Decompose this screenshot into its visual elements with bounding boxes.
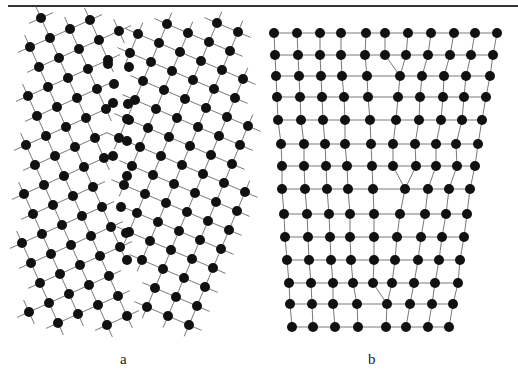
atom — [466, 50, 476, 60]
atom — [37, 229, 47, 239]
atom — [391, 115, 401, 125]
atom — [387, 278, 397, 288]
atom — [426, 28, 436, 38]
atom — [28, 209, 38, 219]
atom — [19, 189, 29, 199]
atom — [465, 184, 475, 194]
lattice-figure — [0, 0, 518, 388]
atom — [219, 178, 229, 188]
atom — [23, 91, 33, 101]
atom — [97, 202, 107, 212]
atom — [395, 71, 405, 81]
atom — [336, 28, 346, 38]
atom — [99, 153, 109, 163]
atom — [74, 44, 84, 54]
atom — [321, 161, 331, 171]
atom — [423, 184, 433, 194]
atom — [48, 200, 58, 210]
atom — [34, 62, 44, 72]
atom — [280, 232, 290, 242]
atom — [271, 71, 281, 81]
atom — [122, 255, 132, 265]
atom — [381, 322, 391, 332]
atom — [316, 71, 326, 81]
atom — [284, 278, 294, 288]
atom — [83, 64, 93, 74]
atom — [25, 42, 35, 52]
atom — [163, 311, 173, 321]
atom — [224, 225, 234, 235]
atom — [122, 311, 132, 321]
atom — [369, 255, 379, 265]
atom — [162, 19, 172, 29]
atom — [438, 92, 448, 102]
atom — [235, 140, 245, 150]
atom — [73, 309, 83, 319]
atom — [77, 211, 87, 221]
atom — [192, 301, 202, 311]
atom — [445, 50, 455, 60]
atom — [180, 94, 190, 104]
atom — [86, 231, 96, 241]
atom — [123, 99, 133, 109]
atom — [35, 278, 45, 288]
atom — [368, 278, 378, 288]
atom — [444, 322, 454, 332]
atom — [420, 209, 430, 219]
atom — [133, 29, 143, 39]
atom — [52, 102, 62, 112]
atom — [336, 50, 346, 60]
atom — [201, 103, 211, 113]
atom — [150, 283, 160, 293]
atom — [366, 139, 376, 149]
atom — [108, 151, 118, 161]
atom — [143, 123, 153, 133]
atom — [369, 232, 379, 242]
atom — [17, 238, 27, 248]
atom — [127, 161, 137, 171]
atom — [277, 161, 287, 171]
atom — [365, 115, 375, 125]
atom — [109, 79, 119, 89]
atom — [423, 322, 433, 332]
atom — [177, 160, 187, 170]
atom — [208, 263, 218, 273]
atom — [132, 208, 142, 218]
atom — [342, 161, 352, 171]
atom — [21, 140, 31, 150]
atom — [113, 291, 123, 301]
atom — [393, 92, 403, 102]
atom — [153, 217, 163, 227]
atom — [400, 184, 410, 194]
atom — [410, 139, 420, 149]
atom — [461, 71, 471, 81]
atom — [90, 133, 100, 143]
atom — [198, 169, 208, 179]
atom — [121, 228, 131, 238]
atom — [330, 322, 340, 332]
atom — [273, 115, 283, 125]
atom — [414, 115, 424, 125]
atom — [79, 162, 89, 172]
atom — [368, 184, 378, 194]
atom — [451, 139, 461, 149]
atom — [104, 271, 114, 281]
atom — [159, 85, 169, 95]
atom — [164, 132, 174, 142]
atom — [380, 50, 390, 60]
atom — [287, 322, 297, 332]
atom — [44, 298, 54, 308]
atom — [166, 245, 176, 255]
atom — [352, 299, 362, 309]
atom — [193, 122, 203, 132]
atom — [277, 184, 287, 194]
atom — [431, 161, 441, 171]
atom — [204, 37, 214, 47]
atom — [92, 84, 102, 94]
atom — [300, 184, 310, 194]
panel-a-grain-boundary — [10, 6, 261, 337]
atom — [415, 92, 425, 102]
atom — [292, 28, 302, 38]
atom — [318, 115, 328, 125]
atom — [145, 236, 155, 246]
